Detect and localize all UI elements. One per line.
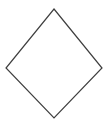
canvas-background — [0, 0, 108, 126]
shape-svg — [0, 0, 108, 126]
figure-canvas — [0, 0, 108, 126]
